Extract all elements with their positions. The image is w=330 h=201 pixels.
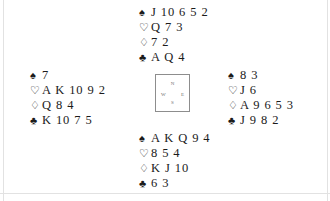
north-diamonds-row: ♢ 7 2 [139,35,209,50]
heart-icon: ♡ [228,83,240,98]
west-hand: ♠ 7 ♡ A K 10 9 2 ♢ Q 8 4 ♣ K 10 7 5 [30,68,106,128]
heart-icon: ♡ [139,146,151,161]
heart-icon: ♡ [30,83,42,98]
east-spades-cards: 8 3 [240,68,258,83]
west-hearts-cards: A K 10 9 2 [42,83,106,98]
south-spades-cards: A K Q 9 4 [151,131,211,146]
page-edge-line-bottom [0,193,330,194]
north-hearts-row: ♡ Q 7 3 [139,20,209,35]
north-clubs-cards: A Q 4 [151,50,185,65]
compass-north-label: N [156,81,189,86]
spade-icon: ♠ [228,68,240,83]
south-diamonds-row: ♢ K J 10 [139,161,211,176]
club-icon: ♣ [139,50,151,65]
spade-icon: ♠ [30,68,42,83]
diamond-icon: ♢ [228,98,240,113]
compass-south-label: S [156,100,189,105]
compass-west-label: W [161,92,166,97]
diamond-icon: ♢ [139,35,151,50]
page-edge-line-left [3,0,4,201]
south-clubs-row: ♣ 6 3 [139,176,211,191]
compass-box: N W E S [155,74,190,112]
east-diamonds-cards: A 9 6 5 3 [240,98,294,113]
club-icon: ♣ [30,113,42,128]
east-hearts-cards: J 6 [240,83,257,98]
east-spades-row: ♠ 8 3 [228,68,294,83]
west-diamonds-row: ♢ Q 8 4 [30,98,106,113]
north-hand: ♠ J 10 6 5 2 ♡ Q 7 3 ♢ 7 2 ♣ A Q 4 [139,5,209,65]
west-hearts-row: ♡ A K 10 9 2 [30,83,106,98]
compass-east-label: E [181,92,184,97]
south-hand: ♠ A K Q 9 4 ♡ 8 5 4 ♢ K J 10 ♣ 6 3 [139,131,211,191]
east-hand: ♠ 8 3 ♡ J 6 ♢ A 9 6 5 3 ♣ J 9 8 2 [228,68,294,128]
east-clubs-row: ♣ J 9 8 2 [228,113,294,128]
west-spades-cards: 7 [42,68,49,83]
club-icon: ♣ [228,113,240,128]
west-spades-row: ♠ 7 [30,68,106,83]
diamond-icon: ♢ [30,98,42,113]
south-hearts-row: ♡ 8 5 4 [139,146,211,161]
north-spades-row: ♠ J 10 6 5 2 [139,5,209,20]
east-diamonds-row: ♢ A 9 6 5 3 [228,98,294,113]
south-spades-row: ♠ A K Q 9 4 [139,131,211,146]
east-hearts-row: ♡ J 6 [228,83,294,98]
north-spades-cards: J 10 6 5 2 [151,5,209,20]
heart-icon: ♡ [139,20,151,35]
north-diamonds-cards: 7 2 [151,35,169,50]
west-clubs-cards: K 10 7 5 [42,113,93,128]
west-diamonds-cards: Q 8 4 [42,98,74,113]
west-clubs-row: ♣ K 10 7 5 [30,113,106,128]
page-edge-line-right [327,0,328,201]
south-hearts-cards: 8 5 4 [151,146,181,161]
north-clubs-row: ♣ A Q 4 [139,50,209,65]
spade-icon: ♠ [139,131,151,146]
south-clubs-cards: 6 3 [151,176,169,191]
spade-icon: ♠ [139,5,151,20]
bridge-deal-diagram: ♠ J 10 6 5 2 ♡ Q 7 3 ♢ 7 2 ♣ A Q 4 ♠ 7 ♡… [0,0,330,201]
south-diamonds-cards: K J 10 [151,161,189,176]
club-icon: ♣ [139,176,151,191]
north-hearts-cards: Q 7 3 [151,20,183,35]
diamond-icon: ♢ [139,161,151,176]
east-clubs-cards: J 9 8 2 [240,113,279,128]
